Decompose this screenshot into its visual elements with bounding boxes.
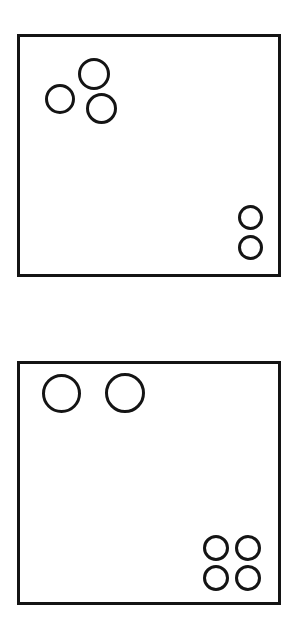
circle-group-bottom-right	[20, 37, 278, 274]
circle-bottom-right[interactable]	[235, 565, 261, 591]
panel-top[interactable]	[17, 34, 281, 277]
circle-lower[interactable]	[238, 235, 263, 260]
circle-top-right[interactable]	[235, 535, 261, 561]
circle-top-left[interactable]	[203, 535, 229, 561]
circle-upper[interactable]	[238, 205, 263, 230]
stimulus-page	[0, 0, 302, 639]
circle-bottom-left[interactable]	[203, 565, 229, 591]
circle-group-bottom-right	[20, 364, 278, 602]
panel-bottom[interactable]	[17, 361, 281, 605]
